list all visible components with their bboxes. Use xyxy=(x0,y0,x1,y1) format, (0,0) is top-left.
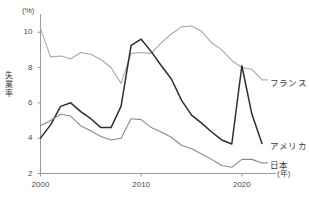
x-tick-label-2000: 2000 xyxy=(26,180,56,189)
axes-group xyxy=(41,14,277,174)
y-axis-title: 失業率 xyxy=(3,71,14,98)
y-tick-label-6: 6 xyxy=(19,98,33,107)
y-tick-label-10: 10 xyxy=(19,27,33,36)
series-line-フランス xyxy=(41,26,263,83)
series-line-日本 xyxy=(41,114,263,167)
y-axis-unit-label: (%) xyxy=(22,6,34,15)
series-label-france: フランス xyxy=(270,76,307,88)
series-label-japan: 日本 xyxy=(270,158,288,170)
series-leader-lines xyxy=(262,80,268,163)
x-tick-label-2010: 2010 xyxy=(126,180,156,189)
series-label-america: アメリカ xyxy=(270,139,307,151)
y-tick-label-8: 8 xyxy=(19,63,33,72)
chart-plot-area xyxy=(0,0,309,202)
x-tick-label-2020: 2020 xyxy=(227,180,257,189)
y-tick-label-4: 4 xyxy=(19,133,33,142)
y-tick-label-2: 2 xyxy=(19,169,33,178)
series-paths-group xyxy=(41,26,263,167)
series-line-アメリカ xyxy=(41,39,263,144)
unemployment-rate-line-chart: (%) 失業率 (年) 246810 200020102020 フランス アメリ… xyxy=(0,0,309,202)
